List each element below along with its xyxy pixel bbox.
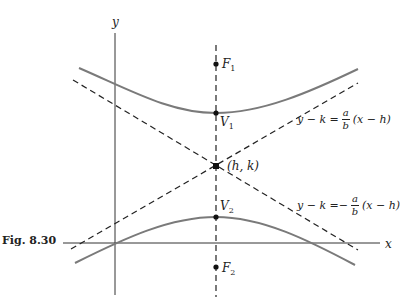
equation-rhs: (x − h) [362,199,400,212]
equation-lhs: y − k = [297,113,339,126]
focus-2-label: F2 [222,262,235,277]
focus-1-point [213,61,218,66]
center-label: (h, k) [227,160,259,172]
vertex-1-point [213,110,218,115]
asymptote-negative-equation: y − k = − a b (x − h) [297,194,400,217]
fraction-denominator: b [352,206,358,217]
slope-fraction: a b [342,108,350,131]
hyperbola-figure: y x F1 V1 (h, k) V2 F2 y − k = a b (x − … [0,0,407,305]
equation-rhs: (x − h) [353,113,391,126]
vertex-2-label: V2 [220,200,234,215]
vertex-1-label: V1 [220,116,234,131]
hyperbola-lower-branch [75,217,355,265]
hyperbola-upper-branch [79,68,358,113]
figure-caption: Fig. 8.30 [2,234,56,247]
center-point [213,163,219,169]
focus-1-label: F1 [222,58,235,73]
y-axis-label: y [112,16,119,28]
figure-graphics [0,0,407,305]
equation-sign: − [339,199,348,212]
fraction-numerator: a [351,194,359,206]
fraction-numerator: a [342,108,350,120]
equation-lhs: y − k = [297,199,339,212]
slope-fraction: a b [351,194,359,217]
focus-2-point [213,264,218,269]
fraction-denominator: b [343,120,349,131]
asymptote-positive-equation: y − k = a b (x − h) [297,108,391,131]
x-axis-label: x [385,238,392,250]
vertex-2-point [213,214,218,219]
